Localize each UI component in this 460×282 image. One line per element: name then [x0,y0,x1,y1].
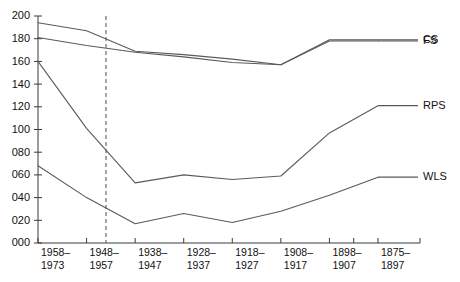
series-line-fs [38,38,378,65]
series-line-wls [38,166,378,224]
y-tick-label: 020 [12,214,30,226]
x-tick-label: 1937 [187,259,211,271]
x-tick-label: 1875– [381,246,410,258]
y-tick-label: 180 [12,32,30,44]
series-labels-group: CSFSRPSWLS [423,33,447,182]
x-tick-label: 1898– [332,246,361,258]
y-tick-label: 000 [12,236,30,248]
x-tick-label: 1907 [332,259,356,271]
series-line-rps [38,61,378,182]
x-tick-label: 1957 [90,259,114,271]
x-axis-ticks [38,238,420,243]
series-line-cs [38,23,378,65]
y-tick-label: 060 [12,168,30,180]
y-axis-ticks: 000020040060080100120140160180200 [12,9,42,248]
series-label-fs: FS [423,34,437,46]
chart-canvas: 000020040060080100120140160180200 1958–1… [0,0,460,282]
x-tick-label: 1948– [90,246,119,258]
x-tick-label: 1897 [381,259,405,271]
series-label-wls: WLS [423,170,447,182]
x-tick-label: 1947 [138,259,162,271]
y-tick-label: 120 [12,100,30,112]
y-tick-label: 100 [12,123,30,135]
x-tick-label: 1927 [235,259,259,271]
x-tick-label: 1973 [41,259,65,271]
y-tick-label: 140 [12,78,30,90]
x-tick-label: 1908– [284,246,313,258]
y-tick-label: 080 [12,146,30,158]
x-axis-tick-labels: 1958–19731948–19571938–19471928–19371918… [41,246,410,271]
y-tick-label: 040 [12,191,30,203]
line-chart: 000020040060080100120140160180200 1958–1… [0,0,460,282]
y-tick-label: 160 [12,55,30,67]
series-label-rps: RPS [423,99,446,111]
y-tick-label: 200 [12,9,30,21]
x-tick-label: 1938– [138,246,167,258]
series-paths-group [38,23,418,224]
x-tick-label: 1917 [284,259,308,271]
x-tick-label: 1928– [187,246,216,258]
x-tick-label: 1958– [41,246,70,258]
x-tick-label: 1918– [235,246,264,258]
